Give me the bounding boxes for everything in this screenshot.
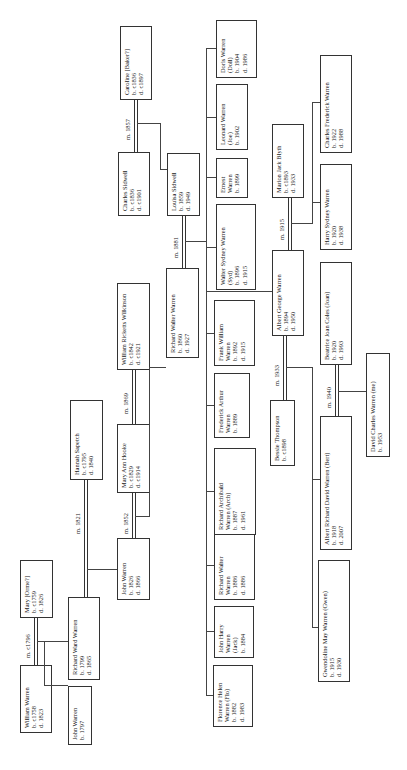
family-tree-page: William Warren b. c1758 d. 1823 Mary [Or… [0, 0, 407, 770]
descent-line [206, 565, 214, 566]
marriage-label: m. 1821 [74, 513, 81, 534]
person-walter-sydney-warren: Walter Sydney Warren (Syd) b. 1896 d. 19… [216, 204, 256, 290]
person-frederick-arthur-warren: Frederick Arthur Warren b. 1889 [214, 373, 250, 438]
person-richard-walter-warren-1860: Richard Walter Warren b. 1860 d. 1927 [166, 268, 199, 358]
died: d. 1840 [87, 405, 94, 475]
marriage-label: m. 1869 [122, 393, 129, 414]
person-gwendoline-may-warren: Gwendoline May Warren (Gwen) b. 1915 d. … [318, 560, 350, 682]
name: Walter Sydney Warren [219, 209, 226, 285]
died: d. 1988 [337, 60, 344, 148]
name: Caroline [Baker?] [123, 31, 130, 95]
descent-line [206, 631, 214, 632]
descent-line [206, 291, 272, 292]
nickname: (Jack) [231, 611, 238, 653]
person-mary-ann-hooke: Mary Ann Hooke b. c1829 d. c1914 [117, 424, 150, 493]
name: Charles Sidwell [121, 157, 128, 211]
person-william-warren: William Warren b. c1758 d. 1823 [20, 665, 52, 733]
died: d. c1914 [134, 429, 141, 488]
born: b. c1759 [30, 565, 37, 613]
name-cont: Warren (Flo) [223, 670, 230, 722]
person-john-harry-warren: John Harry Warren (Jack) b. 1884 [214, 606, 254, 658]
descent-line [206, 247, 216, 248]
person-marion-jack-blyth: Marion Jack Blyth b. c1893 d. 1933 [272, 124, 304, 198]
person-beatrice-joan-coles: Beatrice Joan Coles (Joan) b. 1920 d. 19… [320, 262, 352, 365]
marriage-line [84, 480, 88, 597]
died: d. 2007 [337, 421, 344, 545]
descent-line [312, 102, 320, 103]
marriage-line [134, 100, 138, 152]
person-john-warren-1826: John Warren b. 1826 d. 1866 [117, 538, 150, 600]
person-john-warren-1797: John Warren b. 1797 [68, 686, 92, 745]
died: d. 1986 [241, 25, 248, 73]
descent-line [206, 177, 216, 178]
marriage-label: m. 1940 [325, 387, 332, 408]
name: Albert Richard David Warren (Bert) [323, 421, 330, 545]
born: b. c1842 [127, 288, 134, 365]
name: Charles Frederick Warren [323, 60, 330, 148]
descent-line [185, 241, 206, 242]
person-hannah-sapetch: Hannah Sapetch b. c1795 d. 1840 [70, 400, 103, 480]
person-charles-sidwell: Charles Sidwell b. c1836 d. c1901 [118, 152, 150, 216]
born: b. c1795 [80, 405, 87, 475]
died: d. 1938 [337, 169, 344, 245]
descent-line [160, 123, 161, 170]
born: b. 1797 [78, 691, 85, 740]
marriage-line [288, 198, 292, 250]
born: b. 1920 [330, 267, 337, 360]
descent-line [206, 48, 216, 49]
name: Harry Sydney Warren [323, 169, 330, 245]
descent-line [87, 569, 117, 570]
person-leonard-warren: Leonard Warren (Joe) b. 1902 [216, 84, 248, 150]
descent-line [338, 391, 366, 392]
born: b. 1860 [176, 273, 183, 353]
descent-line [206, 117, 216, 118]
descent-line [286, 367, 312, 368]
died: d. 1915 [239, 305, 246, 361]
descent-line [37, 641, 44, 642]
born: b. 1889 [231, 378, 238, 433]
person-richard-archibald-warren: Richard Archibald Warren (Arch) b. 1887 … [214, 448, 256, 535]
name: Leonard Warren [219, 89, 226, 145]
person-albert-richard-david-warren: Albert Richard David Warren (Bert) b. 19… [320, 416, 352, 550]
name: Florence Helen [216, 670, 223, 722]
born: b. 1953 [376, 358, 383, 452]
born: b. c1893 [282, 129, 289, 193]
name: David Charles Warren (me) [369, 358, 376, 452]
born: b. 1886 [231, 536, 238, 595]
name: Doris Warren [219, 25, 226, 73]
marriage-label: m. c1796 [24, 634, 31, 658]
person-charles-frederick-warren: Charles Frederick Warren b. 1922 d. 1988 [320, 55, 352, 153]
descent-line [206, 405, 214, 406]
descent-line [291, 223, 312, 224]
nickname: (Syd) [226, 209, 233, 285]
descent-line [44, 685, 68, 686]
died: d. c1897 [137, 31, 144, 95]
descent-line [312, 202, 320, 203]
name: Gwendoline May Warren (Gwen) [321, 565, 328, 677]
born: b. 1902 [233, 89, 240, 145]
marriage-label: m. 1857 [124, 119, 131, 140]
name-cont: Warren [224, 305, 231, 361]
name: Hannah Sapetch [73, 405, 80, 475]
person-richard-ward-warren: Richard Ward Warren b. 1799 d. 1865 [68, 597, 100, 680]
died: d. 1949 [184, 158, 191, 211]
marriage-label: m. 1915 [278, 219, 285, 240]
family-tree-diagram: William Warren b. c1758 d. 1823 Mary [Or… [0, 0, 407, 770]
person-albert-george-warren: Richard Walter Warren Albert George Warr… [272, 250, 304, 336]
nickname: (Doll) [226, 25, 233, 73]
name-cont: Warren [224, 378, 231, 433]
name: Frank William [217, 305, 224, 361]
name-cont: Warren [226, 163, 233, 193]
name: Bessie Thompson [273, 405, 280, 461]
died: d. 1866 [134, 543, 141, 595]
descent-line [206, 695, 213, 696]
sibling-bar [206, 48, 207, 696]
person-caroline-baker: Caroline [Baker?] b. c1836 d. c1897 [120, 26, 152, 100]
born: b. 1915 [328, 565, 335, 677]
name: Richard Walter Warren [169, 273, 176, 353]
died: d. 1915 [241, 209, 248, 285]
person-mary-orme: Mary [Orme?] b. c1759 d. 1826 [20, 560, 53, 618]
name: Ernest [219, 163, 226, 193]
descent-line [312, 479, 320, 480]
name: Richard Walter [217, 536, 224, 595]
